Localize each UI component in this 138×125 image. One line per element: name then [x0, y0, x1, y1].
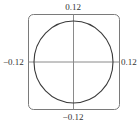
x-max-label: 0.12	[121, 57, 137, 67]
y-min-label: −0.12	[63, 112, 84, 122]
y-max-label: 0.12	[65, 2, 81, 12]
x-min-label: −0.12	[3, 57, 24, 67]
